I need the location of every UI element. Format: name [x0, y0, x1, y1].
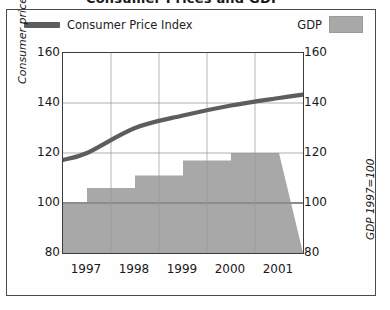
y-tick-right-100: 100 — [304, 196, 327, 208]
page-title: Consumer Prices and GDP — [86, 0, 281, 6]
y-tick-right-120: 120 — [304, 146, 327, 158]
y-axis-right-title: GDP 1997=100 — [364, 159, 376, 240]
chart-legend: Consumer Price Index GDP — [7, 10, 375, 40]
y-tick-left-140: 140 — [37, 96, 60, 108]
legend-item-gdp: GDP — [297, 16, 363, 33]
y-tick-left-100: 100 — [37, 196, 60, 208]
x-tick-2000: 2000 — [206, 262, 254, 276]
chart-title-strip: Consumer Prices and GDP — [0, 0, 390, 9]
y-axis-left-title: Consumer price index 1995=100 — [16, 0, 29, 84]
x-tick-1997: 1997 — [62, 262, 110, 276]
x-tick-1998: 1998 — [110, 262, 158, 276]
chart-frame: Consumer Price Index GDP Consumer price … — [6, 9, 376, 296]
y-tick-left-160: 160 — [37, 46, 60, 58]
legend-label-gdp: GDP — [297, 18, 322, 32]
chart-canvas — [63, 53, 303, 253]
plot-area-wrapper: Consumer price index 1995=100 GDP 1997=1… — [7, 40, 377, 296]
gdp-area-swatch — [329, 16, 363, 33]
y-tick-right-160: 160 — [304, 46, 327, 58]
x-tick-1999: 1999 — [158, 262, 206, 276]
y-tick-left-120: 120 — [37, 146, 60, 158]
plot-area — [62, 52, 304, 254]
cpi-line-swatch — [24, 22, 60, 28]
legend-item-cpi: Consumer Price Index — [24, 18, 193, 32]
x-tick-2001: 2001 — [254, 262, 302, 276]
y-tick-right-80: 80 — [304, 246, 319, 258]
legend-label-cpi: Consumer Price Index — [67, 18, 193, 32]
y-tick-left-80: 80 — [45, 246, 60, 258]
y-tick-right-140: 140 — [304, 96, 327, 108]
